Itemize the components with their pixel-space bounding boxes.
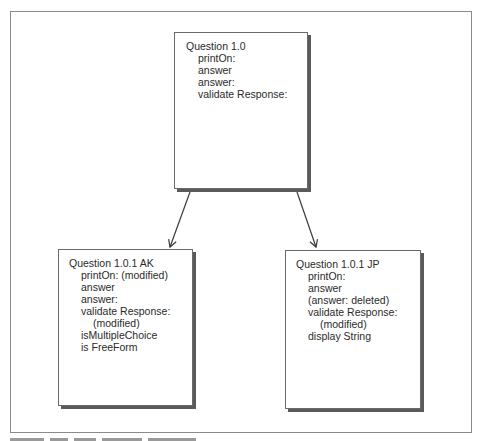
member: isMultipleChoice: [81, 329, 170, 341]
member: answer:: [198, 76, 287, 88]
member: printOn:: [308, 270, 397, 282]
node-title: Question 1.0.1 JP: [296, 258, 379, 270]
member: printOn:: [198, 52, 287, 64]
member-note: (modified): [308, 318, 397, 330]
member: display String: [308, 330, 397, 342]
node-members: printOn: answer (answer: deleted) valida…: [308, 270, 397, 342]
node-members: printOn: answer answer: validate Respons…: [198, 52, 287, 100]
node-title: Question 1.0.1 AK: [69, 257, 154, 269]
node-members: printOn: (modified) answer answer: valid…: [81, 269, 170, 353]
member: validate Response:: [81, 305, 170, 317]
member: answer:: [81, 293, 170, 305]
member: answer: [308, 282, 397, 294]
member-note: (modified): [81, 317, 170, 329]
member: printOn: (modified): [81, 269, 170, 281]
member: answer: [198, 64, 287, 76]
member: validate Response:: [308, 306, 397, 318]
node-question-1-0-1-ak: Question 1.0.1 AK printOn: (modified) an…: [58, 249, 193, 406]
member: is FreeForm: [81, 341, 170, 353]
member: (answer: deleted): [308, 294, 397, 306]
member: validate Response:: [198, 88, 287, 100]
node-question-1-0: Question 1.0 printOn: answer answer: val…: [174, 32, 308, 189]
member: answer: [81, 281, 170, 293]
node-title: Question 1.0: [186, 40, 246, 52]
node-question-1-0-1-jp: Question 1.0.1 JP printOn: answer (answe…: [285, 250, 421, 409]
